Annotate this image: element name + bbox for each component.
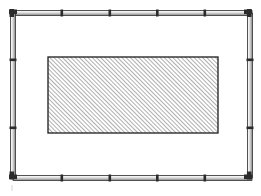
panel-rect	[48, 57, 218, 133]
drawing-canvas	[0, 0, 261, 196]
technical-drawing-figure	[0, 0, 261, 196]
frame-bottom-rail	[13, 176, 252, 181]
frame-right-rail	[248, 13, 253, 178]
frame-top-rail	[13, 11, 252, 16]
frame-left-rail	[11, 13, 16, 178]
inner-hatched-panel	[48, 57, 218, 133]
